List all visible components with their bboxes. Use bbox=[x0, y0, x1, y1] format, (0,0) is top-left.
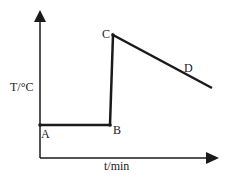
y-axis-label: T/°C bbox=[10, 81, 33, 93]
temperature-time-diagram bbox=[0, 0, 245, 178]
point-d-label: D bbox=[184, 62, 193, 74]
point-a-label: A bbox=[41, 128, 50, 140]
point-c-label: C bbox=[102, 28, 110, 40]
point-b-marker bbox=[108, 123, 112, 127]
x-axis-label: t/min bbox=[104, 160, 129, 172]
temperature-curve bbox=[40, 35, 212, 125]
point-c-marker bbox=[111, 33, 115, 37]
point-b-label: B bbox=[113, 124, 121, 136]
x-axis-arrow-icon bbox=[206, 152, 219, 164]
y-axis-arrow-icon bbox=[34, 10, 46, 22]
x-axis bbox=[40, 152, 219, 164]
